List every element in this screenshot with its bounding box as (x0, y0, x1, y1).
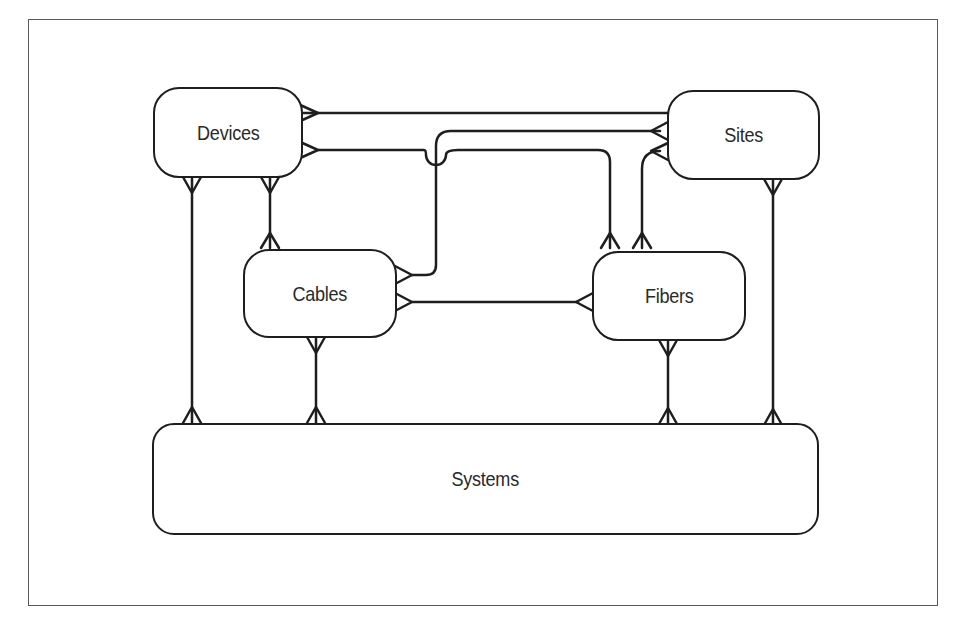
entity-label: Sites (724, 123, 763, 147)
entity-devices[interactable]: Devices (153, 87, 303, 178)
crowfoot-icon (395, 266, 412, 284)
entity-fibers[interactable]: Fibers (592, 251, 746, 341)
entity-sites[interactable]: Sites (667, 90, 820, 180)
entity-cables[interactable]: Cables (243, 249, 397, 338)
crowfoot-icon (395, 293, 412, 311)
link-sites-fibers (642, 151, 660, 248)
crowfoot-icon (576, 293, 593, 311)
entity-label: Devices (197, 121, 259, 145)
entity-systems[interactable]: Systems (152, 423, 819, 535)
entity-label: Fibers (645, 284, 694, 308)
entity-label: Cables (293, 282, 348, 306)
entity-label: Systems (452, 467, 519, 491)
link-devices-fibers (318, 150, 610, 248)
